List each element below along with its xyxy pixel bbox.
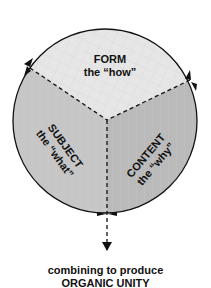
form-title: FORM	[94, 53, 126, 65]
organic-unity-diagram: FORM the “how” SUBJECT the “what” CONTEN…	[0, 0, 211, 288]
caption-line-2: ORGANIC UNITY	[0, 277, 211, 288]
form-subtitle: the “how”	[84, 66, 137, 78]
arrow-right-down-icon	[185, 70, 191, 80]
caption-line-1: combining to produce	[0, 264, 211, 277]
arrow-down-icon	[102, 242, 112, 251]
